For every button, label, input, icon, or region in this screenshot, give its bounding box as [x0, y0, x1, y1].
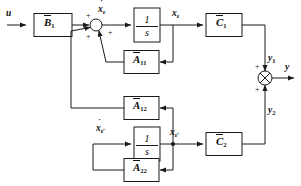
block-label-b1: B1 [44, 17, 55, 28]
block-label-c1: C1 [216, 17, 227, 28]
sign-output-sum-bottom: + [255, 86, 260, 94]
block-label-integrator2: 1 s [134, 134, 160, 157]
sign-input-sum-top: + [86, 12, 91, 20]
sign-input-sum-left: + [86, 33, 91, 41]
sign-input-sum-right: + [108, 29, 113, 37]
signal-label-y2: y2 [268, 106, 275, 116]
signal-label-xdot-lower: ˙xε̄ [96, 124, 103, 134]
block-diagram-canvas: u B1 1 s ˙xε xε C1 A11 A12 A22 1 s [0, 0, 301, 186]
signal-label-y-output: y [285, 63, 289, 73]
signal-label-x-upper: xε [172, 9, 179, 19]
signal-label-y1: y1 [268, 54, 275, 64]
wire-a11-to-sum [99, 30, 106, 62]
block-label-a22: A22 [133, 162, 147, 173]
sign-output-sum-top: + [255, 63, 260, 71]
block-label-c2: C2 [216, 136, 227, 147]
signal-label-xdot-upper: ˙xε [98, 5, 105, 15]
wire-a12-to-sum [71, 27, 91, 31]
input-sum-circle [90, 19, 102, 31]
block-label-a12: A12 [133, 100, 147, 111]
signal-label-x-lower: xε̄ [170, 128, 177, 138]
block-label-integrator1: 1 s [134, 15, 160, 38]
signal-label-u: u [6, 9, 11, 19]
block-label-a11: A11 [133, 54, 147, 65]
